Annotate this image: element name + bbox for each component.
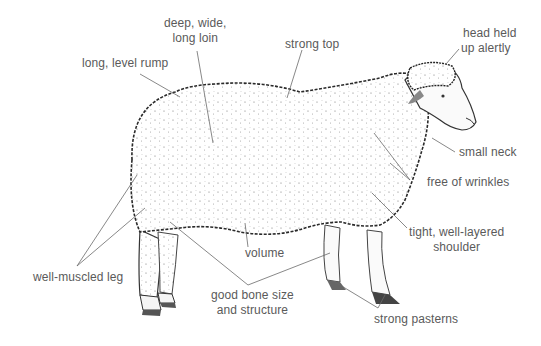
label-loin-line2: long loin xyxy=(164,31,226,46)
label-bone: good bone size and structure xyxy=(211,288,294,318)
fleece-body xyxy=(131,73,428,234)
label-loin: deep, wide, long loin xyxy=(164,16,226,46)
label-wrinkles: free of wrinkles xyxy=(427,175,509,190)
label-neck: small neck xyxy=(459,145,517,160)
label-loin-line1: deep, wide, xyxy=(164,16,226,31)
label-leg-line1: well-muscled leg xyxy=(33,270,123,285)
label-top: strong top xyxy=(285,37,339,52)
label-shoulder-line2: shoulder xyxy=(409,240,504,255)
hind-legs xyxy=(139,230,178,316)
label-pasterns-line1: strong pasterns xyxy=(374,312,458,327)
label-head-line1: head held xyxy=(461,26,517,41)
label-bone-line1: good bone size xyxy=(211,288,294,303)
label-head-line2: up alertly xyxy=(461,41,517,56)
label-top-line1: strong top xyxy=(285,37,339,52)
sheep-conformation-diagram: deep, wide, long loin long, level rump s… xyxy=(0,0,541,346)
label-shoulder: tight, well-layered shoulder xyxy=(409,225,504,255)
label-shoulder-line1: tight, well-layered xyxy=(409,225,504,240)
label-head: head held up alertly xyxy=(461,26,517,56)
label-volume-line1: volume xyxy=(245,246,284,261)
label-wrinkles-line1: free of wrinkles xyxy=(427,175,509,190)
fore-legs xyxy=(324,225,400,304)
label-volume: volume xyxy=(245,246,284,261)
label-bone-line2: and structure xyxy=(211,303,294,318)
label-rump: long, level rump xyxy=(82,56,168,71)
label-pasterns: strong pasterns xyxy=(374,312,458,327)
label-leg: well-muscled leg xyxy=(33,270,123,285)
label-neck-line1: small neck xyxy=(459,145,517,160)
label-rump-line1: long, level rump xyxy=(82,56,168,71)
